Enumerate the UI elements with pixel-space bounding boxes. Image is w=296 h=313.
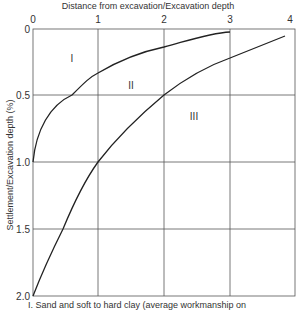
region-i-label: I [71,53,74,64]
curve-ii-iii [33,36,285,296]
region-iii-label: III [190,111,198,122]
caption: I. Sand and soft to hard clay (average w… [28,300,246,310]
curve-i-ii [33,32,230,162]
region-ii-label: II [128,80,134,91]
plot-area [0,0,296,313]
